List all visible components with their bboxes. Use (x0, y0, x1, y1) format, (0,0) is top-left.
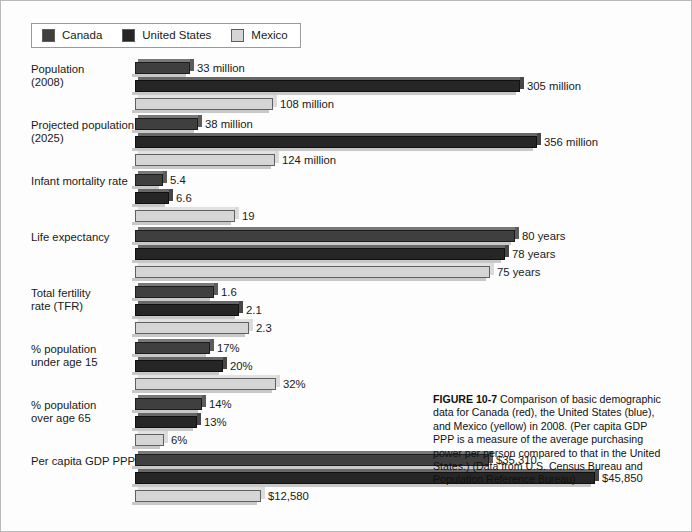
bar-top-highlight (138, 77, 524, 80)
bar-side-face (164, 431, 168, 443)
bar-mexico[interactable] (135, 210, 235, 222)
bar-side-face (163, 171, 167, 183)
bar-side-face (214, 283, 218, 295)
bar-united-states[interactable] (135, 304, 239, 316)
bar-face (135, 230, 515, 242)
bar-drop-shadow (132, 222, 231, 225)
bar-canada[interactable] (135, 398, 202, 410)
bar-face (135, 286, 214, 298)
bar-canada[interactable] (135, 174, 163, 186)
bar-value-label: 38 million (205, 117, 253, 131)
legend-swatch-united-states (122, 29, 135, 42)
bar-top-highlight (138, 375, 280, 378)
chart-row-bars: 33 million305 million108 million (135, 61, 691, 115)
figure-number: FIGURE 10-7 (433, 393, 497, 405)
bar-face (135, 248, 505, 260)
bar-side-face (490, 263, 494, 275)
bar-side-face (197, 413, 201, 425)
bar-value-label: 1.6 (221, 285, 237, 299)
bar-side-face (273, 95, 277, 107)
bar-united-states[interactable] (135, 416, 197, 428)
bar-value-label: 19 (242, 209, 255, 223)
bar-united-states[interactable] (135, 248, 505, 260)
bar-value-label: 108 million (280, 97, 334, 111)
bar-side-face (239, 301, 243, 313)
bar-face (135, 490, 261, 502)
bar-top-highlight (138, 133, 541, 136)
legend-entry-mexico: Mexico (231, 29, 287, 42)
bar-canada[interactable] (135, 230, 515, 242)
bar-drop-shadow (132, 334, 245, 337)
bar-mexico[interactable] (135, 434, 164, 446)
chart-row-bars: 5.46.619 (135, 173, 691, 227)
chart-row-label: % population under age 15 (31, 343, 136, 369)
bar-top-highlight (138, 283, 218, 286)
bar-value-label: 78 years (512, 247, 555, 261)
bar-top-highlight (138, 301, 243, 304)
bar-face (135, 62, 190, 74)
bar-united-states[interactable] (135, 80, 520, 92)
bar-mexico[interactable] (135, 98, 273, 110)
figure-caption: FIGURE 10-7 Comparison of basic demograp… (433, 393, 669, 487)
bar-face (135, 378, 276, 390)
bar-side-face (537, 133, 541, 145)
chart-row-label: Population (2008) (31, 63, 136, 89)
bar-united-states[interactable] (135, 360, 223, 372)
bar-top-highlight (138, 263, 494, 266)
bar-canada[interactable] (135, 118, 198, 130)
bar-canada[interactable] (135, 286, 214, 298)
bar-side-face (249, 319, 253, 331)
bar-line: 305 million (135, 79, 691, 96)
bar-line: 124 million (135, 153, 691, 170)
bar-value-label: 124 million (282, 153, 336, 167)
chart-row-bars: 80 years78 years75 years (135, 229, 691, 283)
bar-top-highlight (138, 59, 194, 62)
bar-face (135, 154, 275, 166)
bar-top-highlight (138, 95, 277, 98)
bar-face (135, 416, 197, 428)
chart-row-label: Per capita GDP PPP (31, 455, 136, 468)
bar-side-face (515, 227, 519, 239)
bar-side-face (190, 59, 194, 71)
bar-line: 20% (135, 359, 691, 376)
bar-united-states[interactable] (135, 136, 537, 148)
bar-value-label: 13% (204, 415, 227, 429)
bar-line: 6.6 (135, 191, 691, 208)
bar-value-label: 2.3 (256, 321, 272, 335)
bar-line: 32% (135, 377, 691, 394)
chart-row: Infant mortality rate5.46.619 (1, 173, 691, 229)
bar-face (135, 304, 239, 316)
bar-drop-shadow (132, 110, 269, 113)
bar-side-face (261, 487, 265, 499)
bar-face (135, 174, 163, 186)
figure-caption-text: Comparison of basic demographic data for… (433, 393, 661, 485)
bar-mexico[interactable] (135, 490, 261, 502)
bar-top-highlight (138, 413, 201, 416)
bar-line: 33 million (135, 61, 691, 78)
bar-value-label: 6.6 (176, 191, 192, 205)
bar-line: 17% (135, 341, 691, 358)
bar-canada[interactable] (135, 62, 190, 74)
bar-mexico[interactable] (135, 378, 276, 390)
chart-row-label: Life expectancy (31, 231, 136, 244)
bar-mexico[interactable] (135, 266, 490, 278)
bar-side-face (235, 207, 239, 219)
bar-mexico[interactable] (135, 154, 275, 166)
bar-side-face (505, 245, 509, 257)
bar-mexico[interactable] (135, 322, 249, 334)
legend-entry-canada: Canada (42, 29, 102, 42)
bar-top-highlight (138, 151, 279, 154)
bar-face (135, 398, 202, 410)
chart-row-bars: 38 million356 million124 million (135, 117, 691, 171)
bar-top-highlight (138, 339, 214, 342)
bar-canada[interactable] (135, 342, 210, 354)
bar-side-face (520, 77, 524, 89)
chart-row: Population (2008)33 million305 million10… (1, 61, 691, 117)
bar-value-label: 33 million (197, 61, 245, 75)
bar-united-states[interactable] (135, 192, 169, 204)
chart-row-label: Total fertility rate (TFR) (31, 287, 136, 313)
bar-face (135, 360, 223, 372)
bar-value-label: 14% (209, 397, 232, 411)
bar-top-highlight (138, 319, 253, 322)
legend-swatch-canada (42, 29, 55, 42)
